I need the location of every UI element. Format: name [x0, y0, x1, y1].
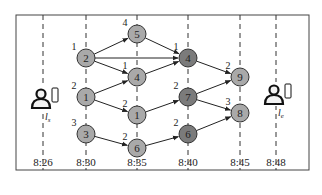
edge-n4_835-n4_840 [145, 61, 178, 73]
edge-n6_840-n8_845 [196, 117, 230, 131]
nodes: 211233544112624172629283 [72, 17, 250, 157]
node-n4_840: 41 [174, 41, 198, 67]
edge-n1_835-n7_840 [145, 100, 178, 112]
node-label: 4 [134, 71, 140, 83]
node-label: 2 [83, 52, 89, 64]
node-n8_845: 83 [226, 96, 250, 122]
node-label: 6 [134, 142, 140, 154]
node-n7_840: 72 [174, 80, 198, 106]
node-label: 9 [237, 71, 243, 83]
time-label: 8:45 [230, 156, 250, 168]
node-weight: 3 [226, 96, 231, 107]
destination-label: le [278, 107, 284, 120]
node-weight: 3 [72, 117, 77, 128]
time-label: 8:26 [33, 156, 53, 168]
node-label: 1 [83, 91, 89, 103]
node-weight: 2 [123, 98, 128, 109]
node-weight: 1 [123, 60, 128, 71]
node-label: 5 [134, 28, 140, 40]
node-weight: 2 [72, 80, 77, 91]
source-label: ls [45, 111, 51, 124]
source-user-icon-group: ls [31, 86, 61, 124]
node-weight: 2 [123, 131, 128, 142]
node-n6_840: 62 [174, 117, 198, 143]
endpoints: lsle [31, 82, 294, 124]
destination-user-icon-group: le [264, 82, 294, 120]
node-weight: 2 [226, 60, 231, 71]
time-label: 8:40 [178, 156, 198, 168]
node-weight: 2 [174, 117, 179, 128]
time-label: 8:35 [127, 156, 147, 168]
phone-icon [52, 88, 58, 102]
node-n1_830: 12 [72, 80, 96, 106]
edge-n6_835-n6_840 [146, 137, 179, 146]
node-weight: 1 [174, 41, 179, 52]
node-weight: 1 [72, 41, 77, 52]
node-label: 1 [134, 109, 140, 121]
node-label: 3 [83, 128, 89, 140]
node-n3_830: 33 [72, 117, 96, 143]
network-diagram: 8:268:308:358:408:458:48 211233544112624… [0, 0, 322, 195]
node-label: 6 [185, 128, 191, 140]
node-label: 8 [237, 107, 243, 119]
time-axis-labels: 8:268:308:358:408:458:48 [33, 156, 286, 168]
edge-n2_830-n5_835 [94, 38, 128, 54]
node-weight: 2 [174, 80, 179, 91]
phone-icon [285, 84, 291, 98]
node-label: 4 [185, 52, 191, 64]
time-label: 8:30 [76, 156, 96, 168]
time-label: 8:48 [266, 156, 286, 168]
edge-n7_840-n9_845 [196, 81, 230, 94]
edge-n1_830-n4_835 [94, 81, 127, 94]
edges [94, 38, 231, 146]
node-label: 7 [185, 91, 191, 103]
node-n6_835: 62 [123, 131, 147, 157]
node-weight: 4 [123, 17, 128, 28]
node-n2_830: 21 [72, 41, 96, 67]
diagram-canvas: 8:268:308:358:408:458:48 211233544112624… [0, 0, 322, 195]
